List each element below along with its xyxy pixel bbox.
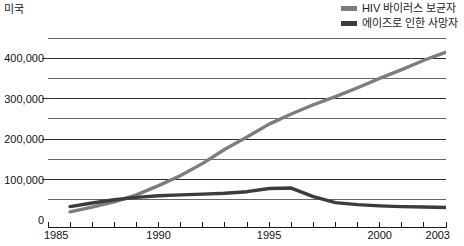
plot-area: [48, 38, 446, 220]
x-axis-tick-label: 2003: [426, 230, 450, 241]
x-axis-tick-label: 2000: [367, 230, 391, 241]
x-axis-tick-label: 1995: [257, 230, 281, 241]
series-line-0: [70, 52, 446, 212]
chart-container: 미국 HIV 바이러스 보균자 에이즈로 인한 사망자 0100,000200,…: [0, 0, 464, 246]
chart-svg: [48, 38, 446, 220]
x-axis-tick-label: 1990: [146, 230, 170, 241]
series-line-1: [70, 188, 446, 207]
x-axis-tick-label: 1985: [44, 230, 68, 241]
